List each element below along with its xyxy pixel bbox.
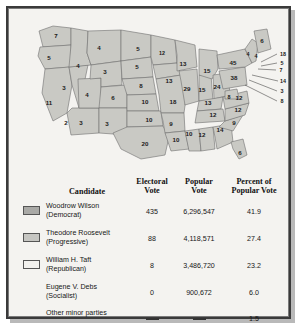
svg-text:13: 13	[166, 77, 173, 84]
svg-text:11: 11	[46, 99, 53, 106]
candidate-name: William H. Taft	[46, 256, 91, 264]
candidate-name: Eugene V. Debs	[46, 283, 97, 291]
candidate-name: Theodore Roosevelt	[46, 229, 110, 237]
svg-text:10: 10	[146, 116, 153, 123]
svg-text:14: 14	[280, 78, 286, 84]
svg-text:4: 4	[97, 44, 101, 51]
column-header-percent-line2: Popular Vote	[223, 186, 285, 195]
popular-vote-value: 3,486,720	[175, 262, 223, 270]
svg-text:10: 10	[173, 136, 180, 143]
svg-text:29: 29	[184, 85, 191, 92]
percent-value: 23.2	[223, 262, 285, 270]
percent-value: 27.4	[223, 235, 285, 243]
candidate-name-cell: Theodore Roosevelt (Progressive)	[46, 229, 132, 247]
candidate-name-cell: William H. Taft (Republican)	[46, 256, 132, 274]
table-row: Eugene V. Debs (Socialist) 0 900,672 6.0	[9, 283, 288, 306]
candidate-name-cell: Other minor parties	[46, 309, 132, 318]
candidate-party: (Socialist)	[46, 292, 132, 301]
svg-text:14: 14	[217, 126, 224, 133]
candidate-party: (Republican)	[46, 265, 132, 274]
svg-text:8: 8	[139, 82, 143, 89]
svg-text:5: 5	[135, 63, 139, 70]
table-row: Woodrow Wilson (Democrat) 435 6,296,547 …	[9, 202, 288, 225]
svg-text:12: 12	[210, 111, 217, 118]
table-row: Theodore Roosevelt (Progressive) 88 4,11…	[9, 229, 288, 252]
svg-text:6: 6	[260, 37, 264, 44]
svg-text:15: 15	[199, 86, 206, 93]
svg-text:4: 4	[255, 53, 258, 59]
popular-vote-value	[175, 315, 223, 323]
svg-text:13: 13	[180, 60, 187, 67]
svg-text:5: 5	[47, 54, 51, 61]
callout-vote-labels: 18 5 7 14 3 8	[280, 51, 287, 104]
svg-text:3: 3	[103, 68, 107, 75]
column-header-popular-line2: Vote	[177, 186, 221, 195]
svg-text:20: 20	[142, 140, 149, 147]
svg-text:18: 18	[280, 51, 286, 57]
legend-swatch-roosevelt	[23, 233, 40, 242]
figure-panel: 7 5 4 4 3 3 4 11 3 3 6 2 5 5 8 10 10	[8, 8, 289, 317]
column-header-popular-line1: Popular	[177, 177, 221, 186]
percent-value: 6.0	[223, 289, 285, 297]
svg-text:12: 12	[199, 131, 206, 138]
legend-swatch-wilson	[23, 206, 40, 215]
table-row: William H. Taft (Republican) 8 3,486,720…	[9, 256, 288, 279]
table-header-row: Candidate Electoral Vote Popular Vote Pe…	[9, 175, 288, 201]
candidate-name-cell: Woodrow Wilson (Democrat)	[46, 202, 132, 220]
column-header-electoral-line2: Vote	[131, 186, 173, 195]
svg-text:6: 6	[238, 149, 242, 156]
svg-text:10: 10	[142, 98, 149, 105]
legend-swatch-taft	[23, 260, 40, 269]
candidate-party: (Democrat)	[46, 211, 132, 220]
svg-text:2: 2	[64, 119, 68, 126]
electoral-vote-value: 8	[131, 262, 173, 270]
svg-text:38: 38	[231, 74, 238, 81]
svg-text:8: 8	[228, 94, 231, 100]
results-table: Candidate Electoral Vote Popular Vote Pe…	[9, 159, 288, 316]
svg-text:12: 12	[235, 106, 242, 113]
popular-vote-value: 6,296,547	[175, 208, 223, 216]
svg-text:3: 3	[281, 88, 284, 94]
election-figure: 7 5 4 4 3 3 4 11 3 3 6 2 5 5 8 10 10	[0, 0, 297, 325]
svg-text:10: 10	[186, 130, 193, 137]
electoral-map: 7 5 4 4 3 3 4 11 3 3 6 2 5 5 8 10 10	[9, 9, 288, 161]
svg-text:5: 5	[136, 45, 140, 52]
electoral-vote-value	[131, 315, 173, 323]
popular-vote-value: 900,672	[175, 289, 223, 297]
candidate-name: Woodrow Wilson	[46, 202, 99, 210]
svg-text:3: 3	[62, 84, 66, 91]
column-header-electoral-vote: Electoral Vote	[131, 177, 173, 196]
column-header-percent: Percent of Popular Vote	[223, 177, 285, 196]
svg-text:6: 6	[111, 94, 115, 101]
map-svg: 7 5 4 4 3 3 4 11 3 3 6 2 5 5 8 10 10	[9, 9, 288, 161]
svg-text:3: 3	[79, 119, 83, 126]
column-header-candidate: Candidate	[45, 187, 129, 196]
svg-text:7: 7	[280, 67, 283, 73]
column-header-popular-vote: Popular Vote	[177, 177, 221, 196]
svg-text:12: 12	[159, 50, 165, 56]
svg-text:8: 8	[281, 98, 284, 104]
candidate-name-cell: Eugene V. Debs (Socialist)	[46, 283, 132, 301]
electoral-vote-value: 0	[131, 289, 173, 297]
svg-text:13: 13	[205, 99, 212, 106]
svg-text:5: 5	[281, 60, 284, 66]
svg-text:18: 18	[170, 98, 177, 105]
svg-text:9: 9	[232, 119, 236, 126]
column-header-electoral-line1: Electoral	[131, 177, 173, 186]
svg-text:4: 4	[85, 91, 89, 98]
svg-text:12: 12	[236, 94, 243, 101]
percent-value: 41.9	[223, 208, 285, 216]
candidate-name: Other minor parties	[46, 309, 107, 317]
popular-vote-value: 4,118,571	[175, 235, 223, 243]
svg-text:15: 15	[204, 67, 211, 74]
svg-text:9: 9	[169, 120, 173, 127]
svg-text:4: 4	[247, 51, 250, 57]
svg-text:4: 4	[76, 62, 80, 69]
table-row: Other minor parties 1.5	[9, 309, 288, 325]
svg-text:24: 24	[214, 83, 221, 90]
electoral-vote-value: 88	[131, 235, 173, 243]
column-header-percent-line1: Percent of	[223, 177, 285, 186]
electoral-vote-value: 435	[131, 208, 173, 216]
percent-value: 1.5	[223, 315, 285, 323]
state-shapes	[38, 26, 271, 159]
